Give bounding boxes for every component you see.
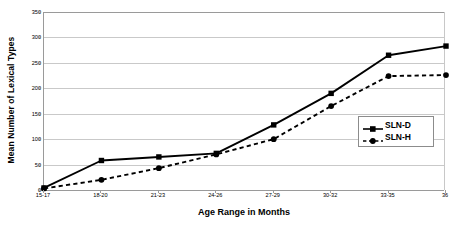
y-tick-mark-50 [38, 164, 41, 165]
x-axis-ticks: 15-1718-2021-2324-2627-2930-3233-3536 [43, 192, 445, 206]
gridline-0 [44, 190, 444, 191]
y-tick-mark-150 [38, 113, 41, 114]
chart-legend: SLN-D SLN-H [358, 116, 434, 147]
y-tick-mark-350 [38, 12, 41, 13]
x-tick-mark-21-23 [158, 190, 159, 193]
legend-item-sln-h: SLN-H [362, 131, 430, 143]
x-tick-mark-15-17 [43, 190, 44, 193]
legend-swatch-dashed-circle [362, 132, 384, 142]
y-tick-mark-300 [38, 37, 41, 38]
legend-swatch-solid-square [362, 120, 384, 130]
data-point-sln-d-21-23 [156, 154, 161, 159]
legend-item-sln-d: SLN-D [362, 119, 430, 131]
legend-label-sln-d: SLN-D [385, 120, 411, 130]
data-point-sln-d-18-20 [99, 158, 104, 163]
x-tick-mark-30-32 [330, 190, 331, 193]
data-point-sln-d-33-35 [386, 53, 391, 58]
y-axis-ticks: 050100150200250300350 [20, 0, 41, 235]
data-point-sln-d-30-32 [328, 91, 333, 96]
y-tick-mark-250 [38, 62, 41, 63]
plot-area [43, 12, 445, 190]
data-point-sln-h-18-20 [99, 177, 105, 183]
x-axis-title: Age Range in Months [43, 207, 445, 217]
y-tick-mark-0 [38, 190, 41, 191]
data-point-sln-h-21-23 [156, 165, 162, 171]
data-point-sln-d-36 [443, 43, 448, 48]
legend-label-sln-h: SLN-H [385, 132, 411, 142]
y-tick-mark-100 [38, 139, 41, 140]
data-point-sln-h-36 [443, 72, 449, 78]
y-axis-title-text: Mean Number of Lexical Types [6, 37, 16, 164]
data-point-sln-h-27-29 [271, 136, 277, 142]
series-svg [44, 12, 446, 190]
x-tick-mark-24-26 [215, 190, 216, 193]
x-tick-mark-36 [445, 190, 446, 193]
y-axis-title: Mean Number of Lexical Types [0, 0, 22, 200]
x-tick-mark-27-29 [273, 190, 274, 193]
x-tick-mark-33-35 [388, 190, 389, 193]
data-point-sln-h-24-26 [213, 152, 219, 158]
data-point-sln-d-27-29 [271, 122, 276, 127]
lexical-types-line-chart: Mean Number of Lexical Types 05010015020… [0, 0, 458, 235]
data-point-sln-h-15-17 [41, 186, 47, 192]
y-tick-mark-200 [38, 88, 41, 89]
x-tick-mark-18-20 [100, 190, 101, 193]
data-point-sln-h-30-32 [328, 103, 334, 109]
data-point-sln-h-33-35 [386, 73, 392, 79]
